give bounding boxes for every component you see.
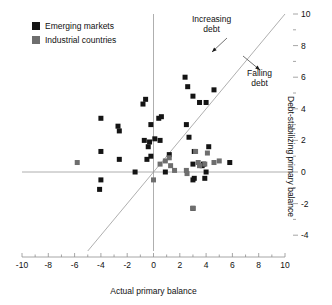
data-point bbox=[184, 122, 189, 127]
x-axis-title: Actual primary balance bbox=[0, 286, 332, 296]
data-point bbox=[227, 160, 232, 165]
data-point bbox=[183, 75, 188, 80]
x-axis-tick-label: -2 bbox=[123, 260, 131, 270]
data-point bbox=[211, 160, 216, 165]
y-axis-tick-label: -2 bbox=[301, 199, 309, 209]
data-point bbox=[152, 136, 157, 141]
data-point bbox=[202, 176, 207, 181]
y-axis-tick-label: 8 bbox=[301, 41, 306, 51]
data-point bbox=[142, 138, 147, 143]
scatter-chart-figure: Emerging markets Industrial countries In… bbox=[0, 0, 332, 305]
legend-swatch-emerging-markets bbox=[32, 22, 40, 30]
data-point bbox=[202, 162, 207, 167]
data-point bbox=[205, 151, 210, 156]
data-point bbox=[206, 144, 211, 149]
data-point bbox=[204, 100, 209, 105]
x-axis-tick-label: 0 bbox=[151, 260, 156, 270]
annotation-falling-debt-line1: Falling bbox=[247, 68, 272, 78]
x-axis-tick-label: -10 bbox=[16, 260, 28, 270]
data-point bbox=[187, 135, 192, 140]
data-point bbox=[117, 157, 122, 162]
legend-item-emerging-markets: Emerging markets bbox=[32, 20, 116, 32]
x-axis-tick-label: 4 bbox=[204, 260, 209, 270]
data-point bbox=[190, 206, 195, 211]
x-axis-tick-label: 8 bbox=[256, 260, 261, 270]
data-point bbox=[151, 177, 156, 182]
data-point bbox=[133, 170, 138, 175]
x-axis-tick-label: 2 bbox=[177, 260, 182, 270]
data-point bbox=[167, 155, 172, 160]
increasing-debt-arrow bbox=[212, 38, 227, 52]
data-point bbox=[158, 138, 163, 143]
data-point bbox=[143, 97, 148, 102]
data-point bbox=[148, 122, 153, 127]
legend-label-industrial-countries: Industrial countries bbox=[45, 34, 116, 46]
data-point bbox=[185, 84, 190, 89]
data-point bbox=[190, 177, 195, 182]
y-axis-tick-label: 2 bbox=[301, 135, 306, 145]
annotation-falling-debt: Falling debt bbox=[247, 68, 272, 88]
data-point bbox=[159, 114, 164, 119]
data-point bbox=[185, 171, 190, 176]
data-point bbox=[116, 124, 121, 129]
data-point bbox=[98, 177, 103, 182]
x-axis-tick-label: -8 bbox=[45, 260, 53, 270]
data-point bbox=[172, 168, 177, 173]
y-axis-tick-label: 4 bbox=[301, 104, 306, 114]
data-point bbox=[197, 163, 202, 168]
data-point bbox=[97, 187, 102, 192]
data-point bbox=[147, 139, 152, 144]
data-point bbox=[211, 87, 216, 92]
data-point bbox=[98, 149, 103, 154]
data-point bbox=[75, 160, 80, 165]
data-point bbox=[158, 162, 163, 167]
data-point bbox=[163, 170, 168, 175]
data-point bbox=[217, 158, 222, 163]
annotation-increasing-debt-line2: debt bbox=[192, 24, 231, 34]
data-point bbox=[190, 94, 195, 99]
data-point bbox=[204, 170, 209, 175]
data-point bbox=[140, 102, 145, 107]
annotation-increasing-debt-line1: Increasing bbox=[192, 14, 231, 24]
annotation-increasing-debt: Increasing debt bbox=[192, 14, 231, 34]
series-emerging-markets bbox=[97, 75, 232, 211]
data-point bbox=[146, 144, 151, 149]
data-point bbox=[190, 162, 195, 167]
x-axis-tick-label: 6 bbox=[230, 260, 235, 270]
data-point bbox=[148, 154, 153, 159]
legend-item-industrial-countries: Industrial countries bbox=[32, 34, 116, 46]
y-axis-tick-label: 6 bbox=[301, 72, 306, 82]
chart-legend: Emerging markets Industrial countries bbox=[32, 20, 116, 48]
legend-swatch-industrial-countries bbox=[32, 36, 40, 44]
data-point bbox=[117, 128, 122, 133]
y-axis-tick-label: 0 bbox=[301, 167, 306, 177]
legend-label-emerging-markets: Emerging markets bbox=[45, 20, 114, 32]
data-point bbox=[98, 116, 103, 121]
x-axis-tick-label: -4 bbox=[97, 260, 105, 270]
x-axis-tick-label: -6 bbox=[71, 260, 79, 270]
y-axis-tick-label: 10 bbox=[301, 9, 310, 19]
data-point bbox=[168, 163, 173, 168]
data-point bbox=[193, 149, 198, 154]
x-axis-tick-label: 10 bbox=[280, 260, 289, 270]
y-axis-tick-label: -4 bbox=[301, 230, 309, 240]
data-point bbox=[197, 100, 202, 105]
y-axis-title: Debt-stabilizing primary balance bbox=[286, 96, 296, 217]
annotation-falling-debt-line2: debt bbox=[247, 78, 272, 88]
